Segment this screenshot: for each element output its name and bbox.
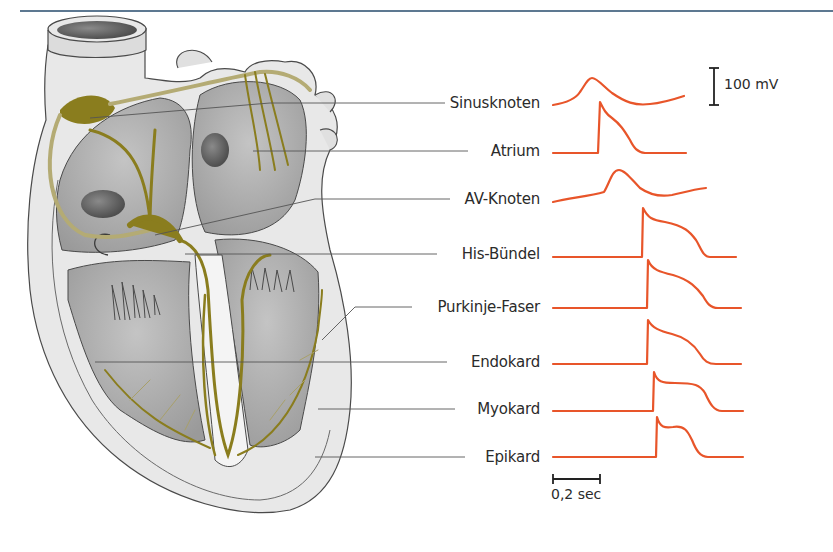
label-myokard: Myokard: [477, 400, 540, 418]
time-scale-bar: [553, 474, 600, 484]
curve-myokard: [553, 372, 743, 411]
action-potential-curves: [553, 78, 743, 457]
label-endokard: Endokard: [471, 353, 540, 371]
label-epikard: Epikard: [485, 448, 540, 466]
voltage-scale-bar: [709, 68, 719, 105]
curve-endokard: [553, 320, 741, 364]
label-purkinje-faser: Purkinje-Faser: [438, 298, 540, 316]
curve-his-buendel: [553, 208, 736, 257]
curve-atrium: [553, 102, 686, 153]
voltage-scale-label: 100 mV: [724, 76, 778, 92]
label-sinusknoten: Sinusknoten: [450, 94, 540, 112]
curve-av-knoten: [553, 170, 706, 202]
label-atrium: Atrium: [491, 142, 540, 160]
curve-sinusknoten: [553, 78, 684, 105]
heart-diagram: [0, 0, 833, 552]
curve-epikard: [553, 417, 743, 457]
time-scale-label: 0,2 sec: [551, 486, 601, 502]
curve-purkinje-faser: [553, 260, 741, 308]
label-his-buendel: His-Bündel: [462, 245, 540, 263]
label-av-knoten: AV-Knoten: [465, 190, 540, 208]
